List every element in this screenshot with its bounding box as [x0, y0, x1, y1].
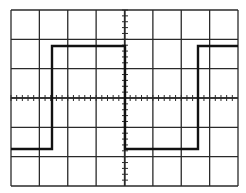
oscilloscope-display [0, 0, 246, 193]
